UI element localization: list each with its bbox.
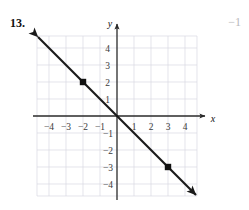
y-tick-label: 3 xyxy=(105,61,110,71)
data-point-marker xyxy=(80,79,86,85)
y-tick-labels: 4 3 2 1 −1 −2 −3 −4 xyxy=(103,44,113,190)
coordinate-plane: x y −4 −3 −2 −1 1 2 3 4 4 3 2 1 −1 −2 xyxy=(0,0,249,210)
x-tick-label: 4 xyxy=(183,122,188,132)
x-tick-label: −3 xyxy=(61,122,71,132)
y-tick-label: 4 xyxy=(105,44,110,54)
y-tick-label: −4 xyxy=(103,180,113,190)
x-tick-label: 2 xyxy=(149,122,154,132)
y-tick-label: −2 xyxy=(103,146,113,156)
y-tick-label: −1 xyxy=(103,129,113,139)
x-tick-label: 3 xyxy=(166,122,171,132)
exercise-figure: 13. −1 xyxy=(0,0,249,210)
data-point-marker xyxy=(165,164,171,170)
axis-lines xyxy=(33,24,205,200)
y-axis-label: y xyxy=(107,18,113,29)
x-tick-labels: −4 −3 −2 −1 1 2 3 4 xyxy=(44,122,188,132)
x-axis-label: x xyxy=(210,113,216,124)
y-tick-label: 2 xyxy=(105,78,110,88)
x-tick-label: −4 xyxy=(44,122,54,132)
y-tick-label: 1 xyxy=(105,95,110,105)
y-tick-label: −3 xyxy=(103,163,113,173)
graph-svg: x y −4 −3 −2 −1 1 2 3 4 4 3 2 1 −1 −2 xyxy=(0,0,249,210)
x-tick-label: −2 xyxy=(78,122,88,132)
